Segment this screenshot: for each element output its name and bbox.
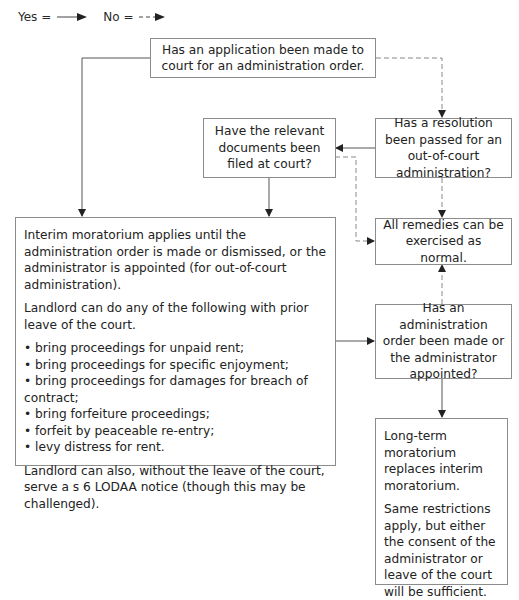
long-term-para2: Same restrictions apply, but either the … [384, 501, 499, 600]
edge-documents-remedies [335, 157, 374, 241]
list-item: bring proceedings for specific enjoyment… [24, 357, 327, 374]
list-item: levy distress for rent. [24, 439, 327, 456]
list-item: bring proceedings for unpaid rent; [24, 340, 327, 357]
list-item: bring forfeiture proceedings; [24, 406, 327, 423]
node-remedies-text: All remedies can be exercised as normal. [382, 217, 505, 267]
edge-application-interim [82, 58, 150, 216]
interim-para1: Interim moratorium applies until the adm… [24, 227, 327, 293]
node-admin-order: Has an administration order been made or… [375, 304, 512, 379]
node-long-term-moratorium: Long-term moratorium replaces interim mo… [375, 418, 508, 585]
node-application-text: Has an application been made to court fo… [157, 42, 369, 75]
node-documents: Have the relevant documents been filed a… [203, 118, 336, 178]
edge-application-resolution [376, 58, 442, 117]
interim-para2: Landlord can do any of the following wit… [24, 300, 327, 333]
interim-para3: Landlord can also, without the leave of … [24, 463, 327, 513]
long-term-para1: Long-term moratorium replaces interim mo… [384, 428, 499, 494]
node-resolution: Has a resolution been passed for an out-… [375, 118, 512, 178]
list-item: bring proceedings for damages for breach… [24, 373, 327, 406]
node-documents-text: Have the relevant documents been filed a… [210, 123, 329, 173]
node-application: Has an application been made to court fo… [150, 38, 376, 78]
interim-remedies-list: bring proceedings for unpaid rent; bring… [24, 340, 327, 456]
node-admin-order-text: Has an administration order been made or… [382, 300, 505, 383]
node-resolution-text: Has a resolution been passed for an out-… [382, 115, 505, 181]
node-remedies: All remedies can be exercised as normal. [375, 218, 512, 265]
node-interim-moratorium: Interim moratorium applies until the adm… [15, 217, 336, 466]
list-item: forfeit by peaceable re-entry; [24, 423, 327, 440]
